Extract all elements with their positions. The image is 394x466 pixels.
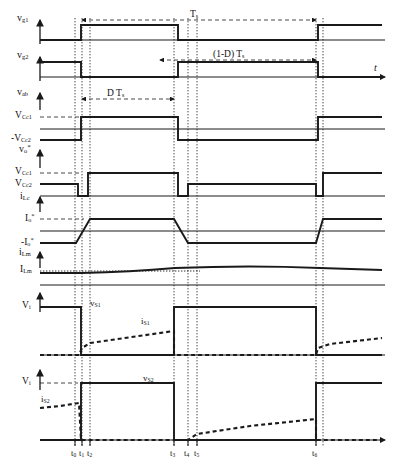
waveform-figure: vg1 vg2 vab vo* iLc iLm VCc1 -VCc2 VCc1 … — [0, 0, 394, 466]
trace-vo — [40, 150, 385, 196]
annotation-off-time: (1-D) Ts — [213, 50, 244, 60]
axis-label-vo: vo* — [19, 144, 31, 155]
time-marker-t6: t6 — [312, 449, 317, 459]
time-axis-label: t — [374, 63, 377, 73]
trace-iLm — [40, 252, 385, 285]
waveform-canvas — [0, 0, 394, 466]
annotation-period: Ts — [190, 10, 198, 20]
axis-label-vab: vab — [17, 87, 28, 98]
level-label-iLc-high: Io* — [25, 213, 35, 223]
level-label-vS2-Vi: Vi — [22, 377, 31, 387]
level-label-iLc-low: -Io* — [21, 237, 34, 247]
level-label-vS1-Vi: Vi — [22, 301, 31, 311]
annotation-on-time: D Ts — [107, 89, 124, 99]
level-label-iLm: ILm — [20, 265, 32, 275]
level-label-vo-high: VCc1 — [15, 167, 32, 177]
time-marker-t3: t3 — [170, 449, 175, 459]
trace-vg2 — [40, 57, 385, 81]
trace-iLc — [40, 197, 385, 243]
axis-label-vg2: vg2 — [17, 50, 28, 61]
level-label-vab-low: -VCc2 — [11, 134, 31, 144]
trace-vab — [40, 93, 385, 140]
trace-vS2 — [40, 370, 385, 440]
time-marker-t0: t0 — [71, 449, 76, 459]
inline-label-iS2: iS2 — [41, 395, 50, 405]
time-marker-t5: t5 — [194, 449, 199, 459]
inline-label-iS1: iS1 — [141, 317, 150, 327]
axis-label-vg1: vg1 — [17, 13, 28, 24]
time-marker-t1: t1 — [79, 449, 84, 459]
inline-label-vS1: vS1 — [90, 299, 101, 309]
level-label-vo-low: VCc2 — [15, 179, 32, 189]
time-marker-t2: t2 — [87, 449, 92, 459]
trace-vg1 — [40, 20, 385, 44]
inline-label-vS2: vS2 — [143, 374, 154, 384]
axis-label-iLc: iLc — [20, 191, 30, 202]
axis-label-iLm: iLm — [19, 247, 31, 258]
level-label-vab-high: VCc1 — [15, 111, 32, 121]
time-marker-t4: t4 — [184, 449, 189, 459]
